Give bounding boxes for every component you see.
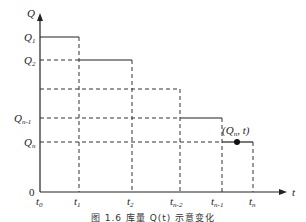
- y-axis-label: Q: [27, 7, 35, 19]
- x-axis-label: t: [292, 186, 296, 198]
- dashed-guides: [40, 37, 253, 192]
- y-axis-arrow-icon: [37, 13, 43, 21]
- point-label: (Qn, t): [222, 124, 250, 138]
- figure-caption: 图 1.6 库量 Q(t) 示意变化: [0, 211, 306, 222]
- y-tick-q2: Q2: [24, 54, 36, 68]
- x-tick-tn-2: tn-2: [170, 195, 183, 209]
- x-tick-tn-1: tn-1: [211, 195, 223, 209]
- y-tick-q1: Q1: [24, 31, 35, 45]
- x-tick-t2: t2: [127, 195, 134, 209]
- x-tick-t1: t1: [74, 195, 81, 209]
- origin-label: 0: [29, 186, 35, 198]
- current-point-marker: [234, 139, 240, 145]
- x-axis-arrow-icon: [279, 189, 287, 195]
- axes: [40, 18, 280, 192]
- y-tick-qn: Qn: [24, 136, 36, 150]
- x-tick-tn: tn: [249, 195, 256, 209]
- y-tick-qn-1: Qn-1: [14, 112, 31, 126]
- inventory-step-diagram: (Qn, t) Q t 0 Q1 Q2 Qn-1 Qn t0 t1 t2 tn-…: [0, 0, 306, 222]
- x-tick-t0: t0: [36, 195, 43, 209]
